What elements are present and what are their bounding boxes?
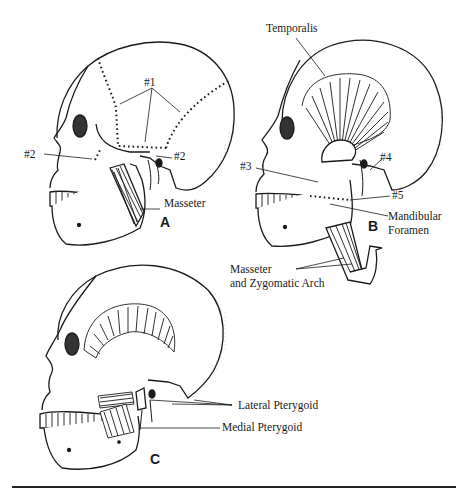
annotation-2-right: #2 <box>174 150 186 163</box>
annotation-1: #1 <box>144 76 156 89</box>
skull-a <box>44 42 234 245</box>
label-mandibular: Mandibular <box>388 210 442 223</box>
annotation-2-left: #2 <box>24 148 36 161</box>
label-lateral-pterygoid: Lateral Pterygoid <box>238 399 318 412</box>
panel-label-a: A <box>160 214 170 230</box>
panel-label-c: C <box>150 451 160 467</box>
annotation-3: #3 <box>240 160 252 173</box>
label-temporalis: Temporalis <box>266 22 318 35</box>
label-masseter-arch-line1: Masseter <box>230 263 272 276</box>
skull-c <box>40 265 232 469</box>
label-medial-pterygoid: Medial Pterygoid <box>222 421 302 434</box>
bottom-rule-divider <box>12 486 456 488</box>
label-masseter-arch-line2: and Zygomatic Arch <box>230 277 325 290</box>
skull-b <box>256 38 442 284</box>
label-foramen: Foramen <box>388 224 429 237</box>
annotation-4: #4 <box>380 151 392 164</box>
annotation-5: #5 <box>392 189 404 202</box>
panel-label-b: B <box>368 218 378 234</box>
label-masseter: Masseter <box>164 197 206 210</box>
